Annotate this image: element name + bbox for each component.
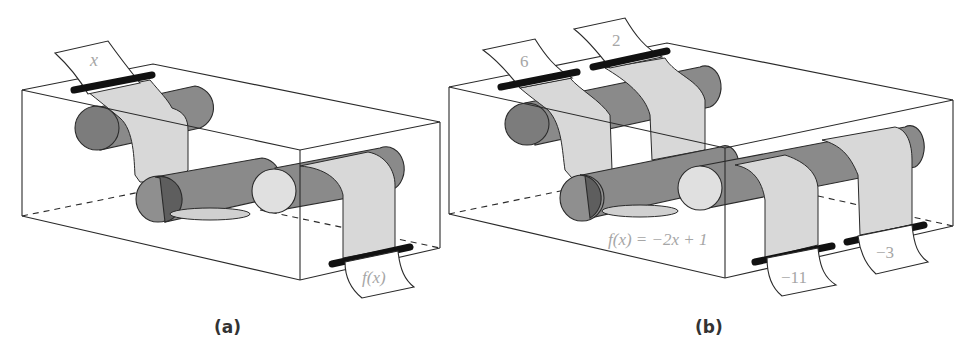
box-hidden-edge [22,190,150,216]
function-label: f(x) = −2x + 1 [608,230,708,249]
input-label: x [89,50,98,70]
box-hidden-edge [449,190,565,214]
output-value-1: −11 [781,268,807,287]
input-value-2: 2 [612,31,621,50]
caption-b: (b) [695,317,723,337]
input-value-1: 6 [520,52,529,71]
caption-a: (a) [214,317,241,337]
panel-b: 6 2 f(x) = −2x + 1 [449,18,953,337]
function-machine-diagram: x f(x) (a) [0,0,964,347]
output-label: f(x) [362,268,386,287]
paper-strip-output [300,152,395,258]
panel-a: x f(x) (a) [22,41,440,337]
output-value-2: −3 [876,243,894,262]
